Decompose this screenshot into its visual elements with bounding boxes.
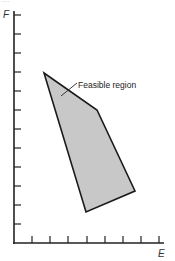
feasible-region-polygon [44, 73, 135, 212]
x-axis-ticks [32, 236, 159, 243]
y-axis-label: F [3, 9, 10, 20]
feasible-region-label: Feasible region [78, 80, 136, 90]
y-axis-ticks [14, 15, 21, 224]
x-axis-label: E [158, 248, 165, 259]
feasible-region-diagram: F E Feasible region [0, 0, 175, 261]
